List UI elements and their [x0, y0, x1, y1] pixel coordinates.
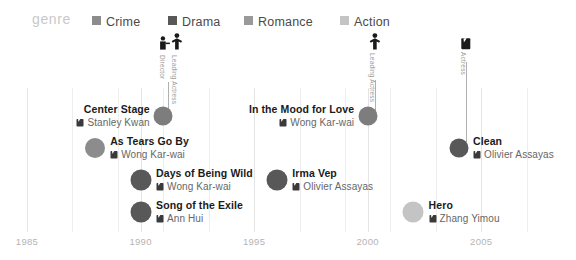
film-label[interactable]: HeroZhang Yimou	[429, 199, 500, 225]
annotation-label-actress: Actress	[460, 52, 467, 75]
film-clapper-icon	[156, 181, 164, 189]
film-label[interactable]: CleanOlivier Assayas	[473, 135, 554, 161]
film-director: Zhang Yimou	[429, 212, 500, 225]
legend-label-crime: Crime	[106, 15, 140, 29]
film-clapper-icon	[292, 181, 300, 189]
director-icon	[160, 36, 171, 54]
legend-swatch-action	[340, 16, 349, 25]
film-dot[interactable]	[358, 107, 377, 126]
film-clapper-icon	[279, 117, 287, 125]
film-director: Wong Kar-wai	[249, 116, 354, 129]
film-clapper-icon	[473, 149, 481, 157]
film-label[interactable]: Center StageStanley Kwan	[76, 103, 149, 129]
film-title: In the Mood for Love	[249, 103, 354, 116]
legend-item-romance[interactable]: Romance	[244, 12, 313, 28]
gridline-minor	[72, 88, 73, 232]
film-title: Hero	[429, 199, 500, 212]
film-title: Song of the Exile	[156, 199, 243, 212]
film-label[interactable]: Irma VepOlivier Assayas	[292, 167, 373, 193]
film-director: Stanley Kwan	[76, 116, 149, 129]
legend-item-crime[interactable]: Crime	[92, 12, 140, 28]
legend: genre Crime Drama Romance Action	[0, 8, 576, 32]
film-dot[interactable]	[266, 170, 287, 191]
film-dot[interactable]	[130, 170, 151, 191]
actress-icon	[369, 33, 382, 54]
film-title: Days of Being Wild	[156, 167, 253, 180]
tick-label: 2005	[470, 236, 492, 247]
film-label[interactable]: Song of the ExileAnn Hui	[156, 199, 243, 225]
legend-swatch-romance	[244, 16, 253, 25]
tick-label: 2000	[356, 236, 378, 247]
tick-label: 1990	[129, 236, 151, 247]
film-dot[interactable]	[85, 138, 105, 158]
annotation-label-leading-actress-2: Leading Actress	[369, 53, 376, 102]
annotation-label-leading-actress-1: Leading Actress	[171, 55, 178, 104]
film-title: Irma Vep	[292, 167, 373, 180]
film-director: Olivier Assayas	[292, 180, 373, 193]
film-director: Wong Kar-wai	[110, 148, 189, 161]
film-director: Olivier Assayas	[473, 148, 554, 161]
film-title: Center Stage	[76, 103, 149, 116]
film-dot[interactable]	[130, 202, 151, 223]
legend-swatch-crime	[92, 16, 101, 25]
film-clapper-icon	[76, 117, 84, 125]
film-title: Clean	[473, 135, 554, 148]
annotation-label-director: Director	[159, 55, 166, 79]
film-clapper-icon	[429, 213, 437, 221]
film-director: Wong Kar-wai	[156, 180, 253, 193]
gridline-major	[27, 88, 28, 232]
actress-icon	[171, 33, 184, 54]
film-dot[interactable]	[403, 202, 424, 223]
legend-swatch-drama	[168, 16, 177, 25]
film-title: As Tears Go By	[110, 135, 189, 148]
film-clapper-icon	[110, 149, 118, 157]
legend-label-romance: Romance	[258, 15, 313, 29]
legend-title: genre	[32, 11, 71, 27]
film-director: Ann Hui	[156, 212, 243, 225]
legend-label-action: Action	[354, 15, 390, 29]
film-label[interactable]: In the Mood for LoveWong Kar-wai	[249, 103, 354, 129]
legend-label-drama: Drama	[182, 15, 221, 29]
legend-item-action[interactable]: Action	[340, 12, 390, 28]
film-dot[interactable]	[154, 107, 173, 126]
film-clapper-icon	[156, 213, 164, 221]
film-label[interactable]: Days of Being WildWong Kar-wai	[156, 167, 253, 193]
gridline-minor	[390, 88, 391, 232]
legend-item-drama[interactable]: Drama	[168, 12, 221, 28]
film-label[interactable]: As Tears Go ByWong Kar-wai	[110, 135, 189, 161]
tick-label: 1995	[243, 236, 265, 247]
film-dot[interactable]	[449, 139, 468, 158]
timeline-chart: genre Crime Drama Romance Action 1985199…	[0, 0, 576, 260]
tick-label: 1985	[16, 236, 38, 247]
